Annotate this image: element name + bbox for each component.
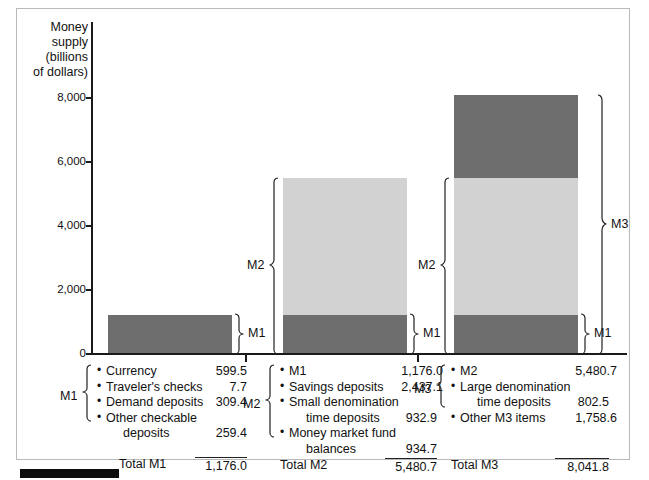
bullet-icon: • xyxy=(97,379,101,395)
item-label: Small denomination xyxy=(289,395,399,411)
item-label: time deposits xyxy=(306,411,380,427)
y-axis-label: Money supply (billions of dollars) xyxy=(14,20,88,80)
table-3-group-label: M3 xyxy=(414,382,431,396)
item-label: M1 xyxy=(289,364,306,380)
item-label: Large denomination xyxy=(460,380,571,396)
item-value: 5,480.7 xyxy=(575,364,617,380)
y-tick-mark-2000 xyxy=(86,289,92,291)
table-1-group-label: M1 xyxy=(60,389,77,403)
bullet-icon: • xyxy=(97,394,101,410)
total-label: Total M3 xyxy=(451,458,498,474)
y-axis-label-line-2: supply xyxy=(14,35,88,50)
y-axis-label-line-4: of dollars) xyxy=(14,65,88,80)
total-value: 1,176.0 xyxy=(195,457,247,475)
y-axis-line xyxy=(91,22,93,355)
table-total-row: Total M1 1,176.0 xyxy=(97,457,247,473)
table-3-bracket xyxy=(434,364,446,408)
bar-1-bracket-m1-label: M1 xyxy=(248,326,265,340)
total-value: 5,480.7 xyxy=(385,458,437,476)
item-value: 259.4 xyxy=(216,426,247,442)
item-label: Savings deposits xyxy=(289,380,384,396)
y-tick-label-0: 0 xyxy=(34,347,86,359)
y-tick-mark-0 xyxy=(86,353,92,355)
item-value: 7.7 xyxy=(230,380,247,396)
total-label: Total M1 xyxy=(119,457,166,473)
item-value: 1,758.6 xyxy=(575,411,617,427)
table-2-group-label: M2 xyxy=(243,397,260,411)
item-value: 599.5 xyxy=(216,364,247,380)
bullet-icon: • xyxy=(97,410,101,426)
bullet-icon: • xyxy=(451,363,455,379)
bar-1-bracket-m1 xyxy=(234,313,246,355)
bar-1-segment-m1 xyxy=(108,315,232,353)
item-value: 932.9 xyxy=(406,411,437,427)
list-item: • Small denomination xyxy=(280,395,443,411)
bullet-icon: • xyxy=(280,394,284,410)
bullet-icon: • xyxy=(451,379,455,395)
y-axis-label-line-3: (billions xyxy=(14,50,88,65)
item-label: M2 xyxy=(460,364,477,380)
y-tick-label-2000: 2,000 xyxy=(34,283,86,295)
table-m2-components: • M1 1,176.0 • Savings deposits 2,437.1 … xyxy=(280,364,443,474)
item-label: time deposits xyxy=(477,395,551,411)
list-item: • Demand deposits 309.4 xyxy=(97,395,247,411)
list-item: • Other M3 items 1,758.6 xyxy=(451,411,617,427)
bar-3-bracket-m2-label: M2 xyxy=(418,258,435,272)
table-total-row: Total M3 8,041.8 xyxy=(451,458,617,474)
bar-3-segment-m3-addition xyxy=(454,95,578,178)
item-label: Demand deposits xyxy=(106,395,203,411)
y-tick-label-8000: 8,000 xyxy=(34,91,86,103)
bullet-icon: • xyxy=(280,425,284,441)
item-label: balances xyxy=(306,442,356,458)
bar-2-segment-m2-addition xyxy=(283,178,407,315)
bar-2-segment-m1 xyxy=(283,315,407,353)
item-value: 934.7 xyxy=(406,442,437,458)
bar-3-bracket-m2 xyxy=(438,177,450,355)
list-item: balances 934.7 xyxy=(280,442,443,458)
x-axis-tick-1 xyxy=(245,355,247,362)
bar-2-bracket-m1 xyxy=(409,313,421,355)
list-item: • Other checkable xyxy=(97,411,247,427)
bar-3-bracket-m3 xyxy=(597,94,609,356)
list-item: • M1 1,176.0 xyxy=(280,364,443,380)
y-tick-mark-8000 xyxy=(86,97,92,99)
table-m3-components: • M2 5,480.7 • Large denomination time d… xyxy=(451,364,617,474)
item-label: Traveler's checks xyxy=(106,380,202,396)
y-tick-mark-4000 xyxy=(86,225,92,227)
list-item: • Large denomination xyxy=(451,380,617,396)
x-axis-tick-2 xyxy=(417,355,419,362)
list-item: • Currency 599.5 xyxy=(97,364,247,380)
table-1-bracket xyxy=(80,364,92,422)
money-supply-stacked-bar-chart: Money supply (billions of dollars) 8,000… xyxy=(0,0,649,480)
table-total-row: Total M2 5,480.7 xyxy=(280,458,443,474)
y-tick-label-6000: 6,000 xyxy=(34,155,86,167)
list-item: time deposits 802.5 xyxy=(451,395,617,411)
bar-3-bracket-m3-label: M3 xyxy=(611,217,628,231)
item-label: deposits xyxy=(123,426,170,442)
bar-3-segment-m2-addition xyxy=(454,178,578,315)
item-label: Currency xyxy=(106,364,157,380)
bullet-icon: • xyxy=(280,379,284,395)
bullet-icon: • xyxy=(280,363,284,379)
list-item: • Money market fund xyxy=(280,426,443,442)
y-tick-label-4000: 4,000 xyxy=(34,219,86,231)
table-2-bracket xyxy=(263,364,275,438)
bar-3-bracket-m1 xyxy=(580,313,592,355)
item-label: Other checkable xyxy=(106,411,197,427)
total-value: 8,041.8 xyxy=(555,458,609,476)
bar-2-bracket-m2-label: M2 xyxy=(247,258,264,272)
item-label: Other M3 items xyxy=(460,411,545,427)
total-label: Total M2 xyxy=(280,458,327,474)
list-item: • Traveler's checks 7.7 xyxy=(97,380,247,396)
x-axis-line xyxy=(91,353,627,355)
y-tick-mark-6000 xyxy=(86,161,92,163)
list-item: deposits 259.4 xyxy=(97,426,247,442)
bar-3-segment-m1 xyxy=(454,315,578,353)
item-value: 802.5 xyxy=(578,395,609,411)
table-m1-components: • Currency 599.5 • Traveler's checks 7.7… xyxy=(97,364,247,473)
list-item: time deposits 932.9 xyxy=(280,411,443,427)
bullet-icon: • xyxy=(451,410,455,426)
bullet-icon: • xyxy=(97,363,101,379)
y-axis-label-line-1: Money xyxy=(14,20,88,35)
bar-2-bracket-m2 xyxy=(267,177,279,355)
